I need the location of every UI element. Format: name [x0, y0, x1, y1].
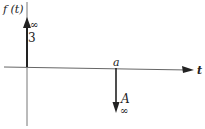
impulse-2-weight: A — [120, 92, 130, 106]
impulse-diagram: f (t) ∞ 3 a A ∞ t — [0, 0, 205, 129]
impulse-1-weight: 3 — [28, 31, 36, 45]
impulse-down-arrow-icon — [113, 102, 120, 113]
impulse-1-infinity: ∞ — [30, 19, 38, 30]
impulse-2-position: a — [113, 56, 120, 69]
x-axis-arrow-icon — [182, 66, 194, 73]
x-axis — [4, 67, 188, 70]
x-axis-label: t — [197, 64, 202, 77]
y-axis-label: f (t) — [2, 3, 24, 16]
impulse-2-infinity: ∞ — [120, 105, 128, 116]
